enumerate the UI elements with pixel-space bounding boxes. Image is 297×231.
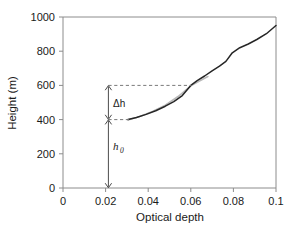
y-tick-label-0: 0 <box>49 182 55 194</box>
delta-h-label: Δh <box>113 98 125 109</box>
x-tick-label-0: 0 <box>60 195 66 207</box>
y-tick-label-200: 200 <box>37 148 55 160</box>
y-tick-label-400: 400 <box>37 114 55 126</box>
x-tick-label-0.04: 0.04 <box>137 195 158 207</box>
x-tick-label-0.1: 0.1 <box>268 195 283 207</box>
y-tick-label-600: 600 <box>37 79 55 91</box>
x-axis-ticks <box>63 188 276 192</box>
h-zero-label-subscript: 0 <box>120 146 124 155</box>
y-axis-title: Height (m) <box>6 76 18 130</box>
y-axis-ticks <box>59 17 63 188</box>
y-tick-label-800: 800 <box>37 45 55 57</box>
x-tick-label-0.08: 0.08 <box>223 195 244 207</box>
y-tick-label-1000: 1000 <box>31 11 55 23</box>
chart-figure: 1000 800 600 400 200 0 0 0.02 0.04 0.06 … <box>0 0 297 231</box>
x-tick-label-0.02: 0.02 <box>95 195 116 207</box>
x-tick-label-0.06: 0.06 <box>180 195 201 207</box>
chart-canvas: 1000 800 600 400 200 0 0 0.02 0.04 0.06 … <box>0 0 297 231</box>
x-axis-title: Optical depth <box>136 211 204 223</box>
h-zero-label-base: h <box>113 140 119 152</box>
